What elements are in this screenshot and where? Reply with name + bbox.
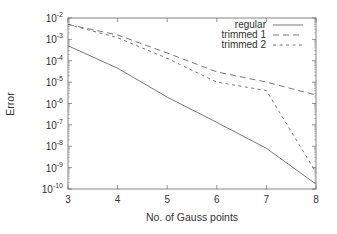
x-tick-label: 7	[264, 194, 270, 205]
y-tick-label: 10-10	[42, 182, 63, 195]
x-tick-label: 4	[115, 194, 121, 205]
legend: regular trimmed 1 trimmed 2	[222, 19, 303, 50]
x-tick-label: 6	[214, 194, 220, 205]
y-tick-label: 10-6	[46, 97, 63, 110]
chart-svg: 10-210-310-410-510-610-710-810-910-10 34…	[0, 0, 337, 234]
x-axis: 345678	[65, 18, 319, 205]
y-tick-label: 10-7	[46, 118, 63, 131]
y-tick-label: 10-3	[46, 32, 63, 45]
series-group	[68, 24, 316, 184]
legend-label-trimmed-2: trimmed 2	[222, 39, 267, 50]
x-tick-label: 8	[313, 194, 319, 205]
x-tick-label: 5	[164, 194, 170, 205]
y-axis-label: Error	[4, 92, 16, 116]
y-tick-label: 10-5	[46, 75, 63, 88]
x-axis-label: No. of Gauss points	[146, 211, 238, 223]
series-line-regular	[68, 46, 316, 184]
y-tick-label: 10-2	[46, 11, 63, 24]
series-line-trimmed-2	[68, 24, 316, 172]
x-tick-label: 3	[65, 194, 71, 205]
y-tick-label: 10-9	[46, 161, 63, 174]
y-tick-label: 10-4	[46, 54, 63, 67]
y-tick-label: 10-8	[46, 139, 63, 152]
plot-frame	[68, 18, 316, 189]
